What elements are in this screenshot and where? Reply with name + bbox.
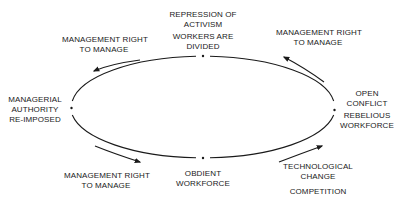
cycle-ellipse	[72, 56, 333, 158]
arrow-top-left	[94, 60, 140, 71]
label-open-conflict: OPEN CONFLICT	[335, 89, 399, 109]
label-arrow-top-right: MANAGEMENT RIGHT TO MANAGE	[276, 28, 360, 48]
label-arrow-top-left: MANAGEMENT RIGHT TO MANAGE	[62, 35, 146, 55]
label-arrow-bottom-left: MANAGEMENT RIGHT TO MANAGE	[64, 171, 148, 191]
label-workers-are-divided: WORKERS ARE DIVIDED	[165, 32, 241, 52]
arrow-bottom-right	[279, 146, 322, 162]
label-managerial-authority-reimposed: MANAGERIAL AUTHORITY RE-IMPOSED	[4, 95, 66, 125]
label-obdient-workforce: OBDIENT WORKFORCE	[170, 169, 236, 189]
dot-top	[202, 55, 204, 57]
dot-left	[70, 107, 72, 109]
dot-bottom	[202, 157, 204, 159]
label-technological-change: TECHNOLOGICAL CHANGE	[280, 162, 356, 182]
label-competition: COMPETITION	[280, 187, 356, 197]
label-repression-of-activism: REPRESSION OF ACTIVISM	[165, 10, 241, 30]
arrow-top-right	[284, 57, 324, 82]
label-rebelious-workforce: REBELIOUS WORKFORCE	[335, 111, 399, 131]
arrow-bottom-left	[95, 146, 140, 162]
